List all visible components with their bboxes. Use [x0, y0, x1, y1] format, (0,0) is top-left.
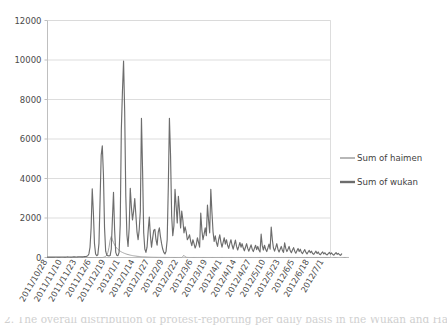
x-axis-tick-labels: 2011/10/282011/11/102011/11/232011/12/62… [17, 258, 326, 304]
figure-caption: 2. The overall distribution of protest-r… [4, 317, 444, 325]
y-tick-label: 2000 [20, 213, 42, 223]
data-series-lines [48, 61, 349, 258]
y-axis-tick-labels: 020004000600080001000012000 [14, 16, 47, 263]
legend-label-haimen: Sum of haimen [357, 153, 422, 163]
chart-legend: Sum of haimenSum of wukan [340, 153, 422, 187]
chart-container: 020004000600080001000012000 2011/10/2820… [0, 0, 447, 329]
y-tick-label: 6000 [20, 134, 42, 144]
y-tick-label: 12000 [14, 16, 41, 26]
y-tick-label: 4000 [20, 174, 42, 184]
gridlines [48, 21, 331, 258]
figure-caption-strip: 2. The overall distribution of protest-r… [0, 317, 447, 329]
chart-canvas: 020004000600080001000012000 2011/10/2820… [0, 0, 447, 329]
y-tick-label: 10000 [14, 55, 41, 65]
y-tick-label: 8000 [20, 95, 42, 105]
legend-label-wukan: Sum of wukan [357, 177, 418, 187]
series-line-wukan [48, 61, 342, 257]
